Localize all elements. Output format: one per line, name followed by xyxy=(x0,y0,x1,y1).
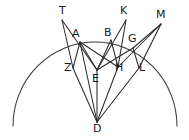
point-label-K: K xyxy=(120,5,127,16)
point-label-A: A xyxy=(72,28,80,39)
point-label-B: B xyxy=(104,27,112,38)
point-label-E: E xyxy=(92,73,99,84)
point-label-D: D xyxy=(93,123,101,134)
point-label-Z: Z xyxy=(64,62,72,73)
point-label-G: G xyxy=(128,33,137,44)
segment-DH xyxy=(97,67,118,122)
segment-DL xyxy=(97,68,139,122)
point-label-T: T xyxy=(59,5,66,16)
point-label-H: H xyxy=(115,62,123,73)
segment-AZ xyxy=(73,42,80,68)
point-label-M: M xyxy=(156,9,166,20)
geometry-figure: TABKMGZEHLD xyxy=(0,0,189,140)
figure-canvas xyxy=(0,0,189,140)
point-label-L: L xyxy=(139,62,145,73)
